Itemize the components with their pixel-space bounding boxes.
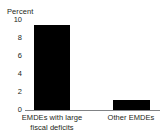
- bars-layer: [0, 0, 167, 110]
- category-label-1: Other EMDEs: [95, 113, 167, 123]
- category-label-0: EMDEs with large fiscal deficits: [14, 113, 90, 132]
- bar-chart: Percent 10 8 6 4 2 0 EMDEs with large fi…: [0, 0, 167, 138]
- bar-other-emdes: [113, 100, 150, 110]
- x-axis-line: [25, 110, 160, 111]
- bar-emdes-with-large-fiscal-deficits: [34, 25, 70, 110]
- x-axis-category-labels: EMDEs with large fiscal deficits Other E…: [0, 113, 167, 138]
- category-label-0-line2: fiscal deficits: [14, 123, 90, 133]
- category-label-0-line1: EMDEs with large: [22, 113, 82, 122]
- category-label-1-line1: Other EMDEs: [108, 113, 155, 122]
